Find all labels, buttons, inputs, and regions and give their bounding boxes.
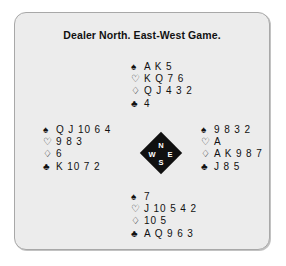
west-diamonds-row: ♢ 6 [43, 148, 111, 160]
spade-icon: ♠ [201, 124, 212, 136]
south-clubs: A Q 9 6 3 [142, 228, 194, 240]
south-hearts-row: ♡ J 10 5 4 2 [131, 203, 197, 215]
west-hearts-row: ♡ 9 8 3 [43, 136, 111, 148]
north-spades-row: ♠ A K 5 [131, 61, 193, 73]
compass-label-north: N [156, 142, 166, 150]
bridge-deal-diagram: Dealer North. East-West Game. ♠ A K 5 ♡ … [14, 12, 270, 250]
east-diamonds: A K 9 8 7 [212, 148, 263, 160]
east-hearts-row: ♡ A [201, 136, 263, 148]
west-hearts: 9 8 3 [54, 136, 83, 148]
heart-icon: ♡ [131, 73, 142, 85]
east-spades-row: ♠ 9 8 3 2 [201, 124, 263, 136]
heart-icon: ♡ [131, 203, 142, 215]
heart-icon: ♡ [43, 136, 54, 148]
diamond-icon: ♢ [201, 148, 212, 160]
north-hearts-row: ♡ K Q 7 6 [131, 73, 193, 85]
north-hearts: K Q 7 6 [142, 73, 184, 85]
south-hearts: J 10 5 4 2 [142, 203, 197, 215]
east-hearts: A [212, 136, 222, 148]
east-clubs-row: ♣ J 8 5 [201, 161, 263, 173]
spade-icon: ♠ [43, 124, 54, 136]
north-hand: ♠ A K 5 ♡ K Q 7 6 ♢ Q J 4 3 2 ♣ 4 [131, 61, 193, 110]
south-diamonds-row: ♢ 10 5 [131, 215, 197, 227]
west-clubs-row: ♣ K 10 7 2 [43, 161, 111, 173]
club-icon: ♣ [201, 161, 212, 173]
west-spades: Q J 10 6 4 [54, 124, 111, 136]
heart-icon: ♡ [201, 136, 212, 148]
west-hand: ♠ Q J 10 6 4 ♡ 9 8 3 ♢ 6 ♣ K 10 7 2 [43, 124, 111, 173]
south-spades-row: ♠ 7 [131, 191, 197, 203]
west-spades-row: ♠ Q J 10 6 4 [43, 124, 111, 136]
north-spades: A K 5 [142, 61, 172, 73]
compass-label-west: W [147, 151, 157, 159]
deal-title: Dealer North. East-West Game. [15, 29, 269, 41]
compass-rose: N W E S [140, 132, 182, 174]
compass-label-south: S [156, 159, 166, 167]
diamond-icon: ♢ [131, 85, 142, 97]
east-clubs: J 8 5 [212, 161, 240, 173]
club-icon: ♣ [43, 161, 54, 173]
north-diamonds-row: ♢ Q J 4 3 2 [131, 85, 193, 97]
east-diamonds-row: ♢ A K 9 8 7 [201, 148, 263, 160]
north-clubs-row: ♣ 4 [131, 98, 193, 110]
south-spades: 7 [142, 191, 150, 203]
north-diamonds: Q J 4 3 2 [142, 85, 193, 97]
north-clubs: 4 [142, 98, 150, 110]
east-hand: ♠ 9 8 3 2 ♡ A ♢ A K 9 8 7 ♣ J 8 5 [201, 124, 263, 173]
spade-icon: ♠ [131, 61, 142, 73]
diamond-icon: ♢ [43, 148, 54, 160]
south-hand: ♠ 7 ♡ J 10 5 4 2 ♢ 10 5 ♣ A Q 9 6 3 [131, 191, 197, 240]
south-diamonds: 10 5 [142, 215, 167, 227]
diamond-icon: ♢ [131, 215, 142, 227]
club-icon: ♣ [131, 228, 142, 240]
spade-icon: ♠ [131, 191, 142, 203]
east-spades: 9 8 3 2 [212, 124, 251, 136]
west-clubs: K 10 7 2 [54, 161, 100, 173]
club-icon: ♣ [131, 98, 142, 110]
compass-label-east: E [165, 151, 175, 159]
west-diamonds: 6 [54, 148, 62, 160]
south-clubs-row: ♣ A Q 9 6 3 [131, 228, 197, 240]
